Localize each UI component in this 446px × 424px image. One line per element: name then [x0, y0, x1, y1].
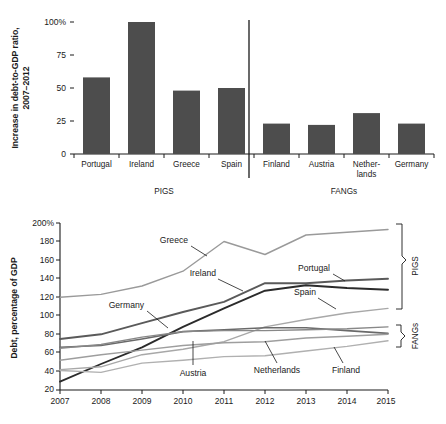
bar-spain	[218, 88, 245, 154]
bar-ytick-50: 50	[57, 83, 67, 93]
line-xtick-2009: 2009	[133, 396, 152, 406]
bracket-pigs-shape	[396, 224, 406, 309]
line-xtick-2014: 2014	[338, 396, 357, 406]
bar-ytick-100: 100%	[44, 17, 66, 27]
bar-label-austria: Austria	[309, 160, 335, 169]
bar-chart-ylabel-line2: 2007–2012	[21, 66, 31, 109]
line-xtick-2007: 2007	[51, 396, 70, 406]
series-label-ireland: Ireland	[190, 268, 216, 278]
series-label-portugal: Portugal	[298, 263, 330, 273]
bar-chart-xticks	[74, 154, 434, 158]
figure-root: Increase in debt-to-GDP ratio, 2007–2012…	[0, 0, 446, 424]
line-chart-xticks	[60, 390, 388, 394]
series-label-netherlands: Netherlands	[254, 365, 300, 375]
series-label-austria: Austria	[180, 368, 207, 378]
bar-ireland	[128, 22, 155, 154]
bar-group-label-fangs: FANGs	[331, 187, 357, 196]
line-ytick-140: 140	[40, 273, 54, 283]
line-xtick-2012: 2012	[256, 396, 275, 406]
line-xtick-2008: 2008	[92, 396, 111, 406]
bar-finland	[263, 124, 290, 154]
series-label-germany: Germany	[109, 300, 145, 310]
line-ytick-60: 60	[45, 347, 55, 357]
line-chart-brackets	[396, 224, 406, 347]
bar-label-greece: Greece	[173, 160, 200, 169]
bar-chart-ylabel-line1: Increase in debt-to-GDP ratio,	[10, 27, 20, 148]
bar-label-netherlands-line2: lands	[357, 170, 377, 179]
bracket-fangs-shape	[396, 325, 405, 347]
bar-chart-yaxis: 100% 75 50 25 0	[44, 17, 74, 159]
line-ytick-40: 40	[45, 366, 55, 376]
bar-austria	[308, 125, 335, 154]
bar-ytick-75: 75	[57, 50, 67, 60]
line-ytick-80: 80	[45, 329, 55, 339]
series-label-spain: Spain	[294, 287, 316, 297]
bracket-label-pigs: PIGS	[411, 256, 420, 276]
series-label-greece: Greece	[160, 235, 188, 245]
bar-label-germany: Germany	[395, 160, 430, 169]
line-chart-ylabel: Debt, percentage of GDP	[9, 257, 19, 359]
line-chart: Debt, percentage of GDP 200% 180 160 140…	[9, 218, 420, 406]
bar-germany	[398, 124, 425, 154]
bar-label-netherlands: Nether-	[353, 160, 381, 169]
bar-ytick-0: 0	[61, 149, 66, 159]
line-xtick-2013: 2013	[297, 396, 316, 406]
line-ytick-160: 160	[40, 255, 54, 265]
line-ytick-20: 20	[45, 384, 55, 394]
line-ytick-100: 100	[40, 310, 54, 320]
bar-netherlands	[353, 113, 380, 154]
bar-ytick-25: 25	[57, 116, 67, 126]
bar-label-ireland: Ireland	[129, 160, 154, 169]
bar-label-spain: Spain	[221, 160, 242, 169]
bar-greece	[173, 91, 200, 154]
line-xtick-2015: 2015	[377, 396, 396, 406]
figure-svg: Increase in debt-to-GDP ratio, 2007–2012…	[0, 0, 446, 424]
line-ytick-200: 200%	[32, 218, 54, 228]
bar-portugal	[83, 77, 110, 154]
line-ytick-120: 120	[40, 292, 54, 302]
line-xtick-2011: 2011	[215, 396, 234, 406]
bar-chart: Increase in debt-to-GDP ratio, 2007–2012…	[10, 17, 434, 196]
line-ytick-180: 180	[40, 236, 54, 246]
line-chart-yaxis: 200% 180 160 140 120 100 80 60 40 20	[32, 218, 60, 394]
bar-label-finland: Finland	[263, 160, 290, 169]
series-label-finland: Finland	[332, 365, 360, 375]
line-xtick-2010: 2010	[174, 396, 193, 406]
bar-group-label-pigs: PIGS	[154, 187, 174, 196]
bracket-label-fangs: FANGs	[411, 323, 420, 349]
bar-label-portugal: Portugal	[81, 160, 112, 169]
